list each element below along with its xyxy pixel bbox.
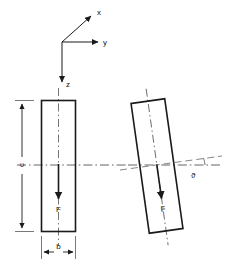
height-dimension-c: c	[15, 101, 34, 232]
tilted-centerline	[120, 156, 222, 170]
engineering-diagram: x y z F c b	[0, 0, 229, 270]
force-arrow-icon-tilted	[157, 164, 162, 199]
angle-label: ϑ	[191, 171, 196, 180]
angle-annotation: ϑ	[191, 158, 205, 180]
force-label-tilted: F	[160, 204, 166, 214]
z-axis-label: z	[66, 80, 70, 89]
y-axis-label: y	[103, 38, 107, 47]
x-axis-label: x	[97, 8, 101, 17]
diagram-canvas: x y z F c b	[0, 0, 229, 270]
force-label-upright: F	[56, 205, 61, 214]
tilted-beam-section: F	[129, 86, 185, 247]
x-axis-arrow-icon	[62, 16, 91, 42]
coordinate-axes: x y z	[62, 8, 107, 89]
upright-beam-section: F	[42, 88, 76, 246]
angle-arc	[204, 158, 206, 165]
width-dimension-label: b	[56, 242, 61, 251]
height-dimension-label: c	[17, 163, 26, 167]
